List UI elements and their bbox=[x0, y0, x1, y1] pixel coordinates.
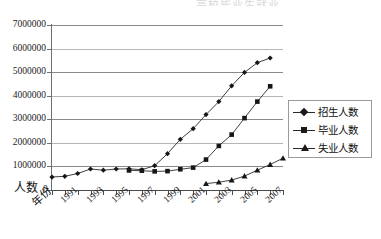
square-marker bbox=[152, 169, 157, 174]
legend-label: 招生人数 bbox=[318, 107, 358, 118]
gridline bbox=[52, 166, 283, 167]
legend-item-unemployed[interactable]: 失业人数 bbox=[293, 140, 358, 156]
square-marker bbox=[204, 157, 209, 162]
y-tick-label: 2000000 bbox=[0, 138, 46, 148]
diamond-marker bbox=[203, 112, 208, 117]
legend-item-enrollment[interactable]: 招生人数 bbox=[293, 104, 358, 120]
diamond-marker bbox=[75, 171, 80, 176]
diamond-marker bbox=[114, 166, 119, 171]
y-tick-label: 7000000 bbox=[0, 20, 46, 30]
gridline bbox=[52, 25, 283, 26]
chart-container: 高校毕业生就业 70000006000000500000040000003000… bbox=[0, 0, 381, 239]
diamond-marker bbox=[255, 60, 260, 65]
y-tick-label: 6000000 bbox=[0, 44, 46, 54]
diamond-marker bbox=[165, 151, 170, 156]
square-marker bbox=[229, 132, 234, 137]
x-tick-label: 2007 bbox=[264, 185, 284, 205]
diamond-marker bbox=[139, 167, 144, 172]
gridline bbox=[52, 49, 283, 50]
square-marker bbox=[268, 84, 273, 89]
legend-label: 毕业人数 bbox=[318, 125, 358, 136]
triangle-marker bbox=[254, 167, 260, 172]
x-tick-label: 2003 bbox=[213, 185, 233, 205]
diamond-marker bbox=[191, 126, 196, 131]
x-tick-label: 1995 bbox=[110, 185, 130, 205]
chart-title-sliver: 高校毕业生就业 bbox=[196, 0, 316, 6]
series-triangle bbox=[203, 155, 286, 186]
series-diamond bbox=[49, 55, 272, 179]
diamond-marker bbox=[229, 83, 234, 88]
triangle-marker bbox=[203, 181, 209, 186]
square-marker bbox=[165, 169, 170, 174]
triangle-marker bbox=[242, 173, 248, 178]
diamond-marker bbox=[101, 168, 106, 173]
square-marker bbox=[178, 167, 183, 172]
square-marker bbox=[255, 99, 260, 104]
diamond-marker bbox=[88, 166, 93, 171]
y-axis-title: 人数 bbox=[14, 182, 38, 194]
gridline bbox=[52, 96, 283, 97]
square-marker-icon bbox=[293, 124, 315, 136]
x-tick-label: 2005 bbox=[239, 185, 259, 205]
triangle-marker-icon bbox=[293, 142, 315, 154]
diamond-marker bbox=[178, 137, 183, 142]
series-line bbox=[52, 58, 270, 177]
x-tick-label: 1993 bbox=[85, 185, 105, 205]
square-marker bbox=[127, 168, 132, 173]
diamond-marker-icon bbox=[293, 106, 315, 118]
y-tick-label: 5000000 bbox=[0, 67, 46, 77]
x-tick-label: 1991 bbox=[59, 185, 79, 205]
diamond-marker bbox=[62, 174, 67, 179]
square-marker bbox=[140, 168, 145, 173]
y-tick-label: 3000000 bbox=[0, 114, 46, 124]
legend-item-graduates[interactable]: 毕业人数 bbox=[293, 122, 358, 138]
x-tick-label: 1997 bbox=[136, 185, 156, 205]
y-tick-label: 4000000 bbox=[0, 91, 46, 101]
y-axis-line bbox=[51, 24, 52, 191]
x-tick-label: 2001 bbox=[187, 185, 207, 205]
y-tick-label: 1000000 bbox=[0, 161, 46, 171]
series-line bbox=[129, 86, 270, 171]
series-line bbox=[206, 158, 283, 183]
diamond-marker bbox=[268, 55, 273, 60]
gridline bbox=[52, 119, 283, 120]
legend-label: 失业人数 bbox=[318, 143, 358, 154]
triangle-marker bbox=[229, 177, 235, 182]
triangle-marker bbox=[216, 179, 222, 184]
chart-legend: 招生人数 毕业人数 失业人数 bbox=[288, 100, 372, 158]
square-marker bbox=[217, 144, 222, 149]
gridline bbox=[52, 143, 283, 144]
gridline bbox=[52, 72, 283, 73]
series-square bbox=[127, 84, 273, 174]
diamond-marker bbox=[216, 99, 221, 104]
triangle-marker bbox=[280, 155, 286, 160]
x-tick-label: 1999 bbox=[162, 185, 182, 205]
